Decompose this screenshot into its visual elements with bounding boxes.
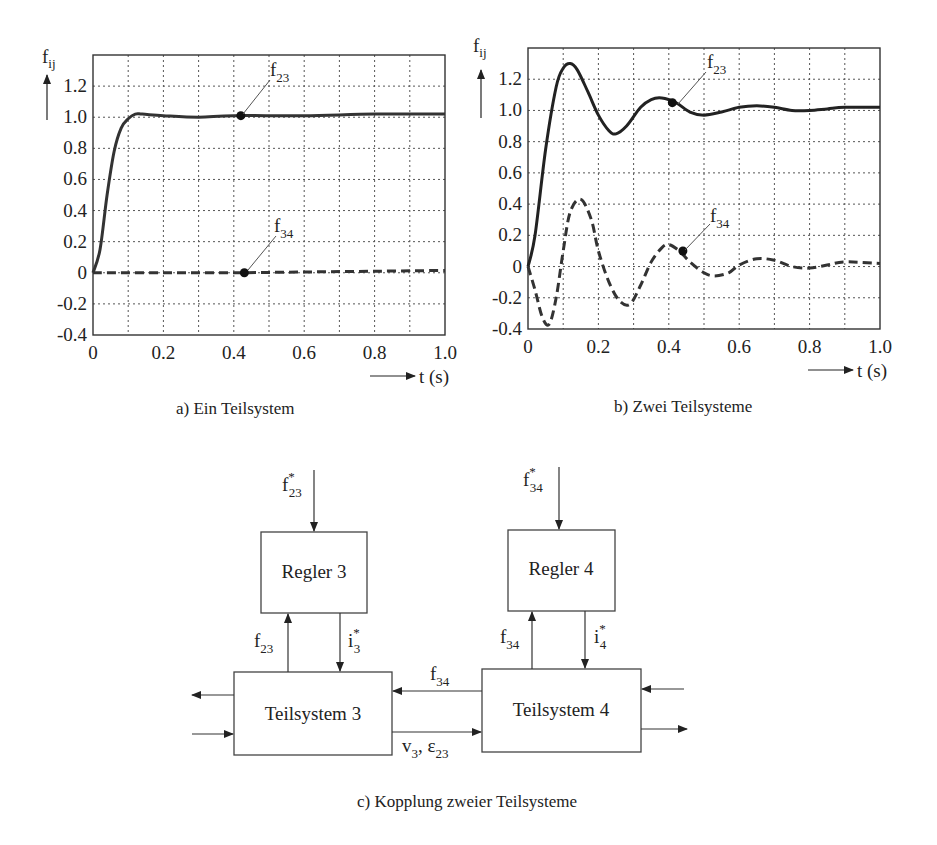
- plot-a-f23-label: f23: [270, 59, 289, 85]
- plot-b-f23-label: f23: [707, 51, 726, 77]
- svg-text:0.8: 0.8: [798, 336, 822, 357]
- plot-b-f34-label: f34: [710, 205, 730, 231]
- teilsystem-3-label: Teilsystem 3: [265, 703, 361, 724]
- svg-text:0.2: 0.2: [498, 224, 522, 245]
- svg-text:0.4: 0.4: [498, 193, 522, 214]
- svg-text:0.2: 0.2: [63, 231, 87, 252]
- plot-a-x-ticks: 00.20.40.60.81.0: [88, 342, 457, 363]
- plot-b-grid: [528, 48, 880, 329]
- svg-text:1.2: 1.2: [498, 68, 522, 89]
- diagram-caption: c) Kopplung zweier Teilsysteme: [357, 792, 577, 811]
- plot-a-f23-leader: [243, 80, 270, 114]
- plot-b-f23-leader: [678, 72, 706, 104]
- i3-ref-label: i*3: [348, 625, 360, 656]
- svg-text:0.8: 0.8: [363, 342, 387, 363]
- svg-text:0: 0: [88, 342, 98, 363]
- plot-a-f23-curve: [93, 114, 445, 273]
- plot-a-f34-label: f34: [274, 215, 294, 241]
- f23-feedback-label: f23: [254, 630, 273, 656]
- svg-text:0.8: 0.8: [498, 131, 522, 152]
- plot-a-y-axis-label: fij: [42, 46, 56, 71]
- plot-b-caption: b) Zwei Teilsysteme: [614, 397, 752, 416]
- svg-text:0.2: 0.2: [152, 342, 176, 363]
- f34-feedback-label: f34: [500, 626, 520, 652]
- f23-ref-label: f*23: [282, 469, 302, 500]
- plot-b-f34-leader: [685, 224, 710, 250]
- plot-b-f23-marker: [668, 98, 677, 107]
- plot-a-caption: a) Ein Teilsystem: [176, 399, 294, 418]
- svg-text:-0.4: -0.4: [57, 324, 88, 345]
- svg-text:0.6: 0.6: [498, 162, 522, 183]
- svg-text:0.4: 0.4: [222, 342, 246, 363]
- svg-text:0: 0: [513, 256, 523, 277]
- plot-b-f34-marker: [678, 246, 687, 255]
- plot-b: 1.21.00.80.60.40.20-0.2-0.4 00.20.40.60.…: [473, 35, 892, 416]
- svg-text:1.2: 1.2: [63, 75, 87, 96]
- plot-b-y-ticks: 1.21.00.80.60.40.20-0.2-0.4: [492, 68, 523, 339]
- svg-text:-0.2: -0.2: [57, 293, 87, 314]
- regler-3-label: Regler 3: [282, 561, 347, 582]
- svg-text:0.4: 0.4: [657, 336, 681, 357]
- f34-coupling-label: f34: [430, 663, 450, 689]
- i4-ref-label: i*4: [594, 621, 607, 652]
- plot-a-f34-marker: [240, 268, 249, 277]
- svg-text:1.0: 1.0: [433, 342, 457, 363]
- v3-eps23-label: v3, ε23: [402, 735, 448, 761]
- svg-text:0: 0: [78, 262, 88, 283]
- svg-text:0.6: 0.6: [63, 168, 87, 189]
- svg-text:-0.4: -0.4: [492, 318, 523, 339]
- svg-text:0.8: 0.8: [63, 137, 87, 158]
- teilsystem-4-label: Teilsystem 4: [513, 699, 610, 720]
- svg-text:0.2: 0.2: [587, 336, 611, 357]
- plot-a-f34-leader: [248, 236, 276, 270]
- svg-text:0.4: 0.4: [63, 200, 87, 221]
- svg-text:-0.2: -0.2: [492, 287, 522, 308]
- coupling-diagram: Regler 3 Regler 4 Teilsystem 3 Teilsyste…: [192, 464, 687, 811]
- svg-text:0: 0: [523, 336, 533, 357]
- svg-text:1.0: 1.0: [63, 106, 87, 127]
- svg-text:1.0: 1.0: [498, 99, 522, 120]
- plot-b-x-axis-label: t (s): [857, 360, 887, 382]
- plot-b-y-axis-label: fij: [473, 35, 487, 60]
- plot-a: 1.21.00.80.60.40.20-0.2-0.4 00.20.40.60.…: [42, 46, 457, 418]
- svg-text:0.6: 0.6: [292, 342, 316, 363]
- plot-a-x-axis-label: t (s): [419, 366, 449, 388]
- plot-b-x-ticks: 00.20.40.60.81.0: [523, 336, 892, 357]
- plot-a-grid: [93, 55, 445, 335]
- regler-4-label: Regler 4: [529, 558, 594, 579]
- svg-text:1.0: 1.0: [868, 336, 892, 357]
- plot-a-y-ticks: 1.21.00.80.60.40.20-0.2-0.4: [57, 75, 88, 345]
- svg-text:0.6: 0.6: [727, 336, 751, 357]
- f34-ref-label: f*34: [523, 464, 543, 495]
